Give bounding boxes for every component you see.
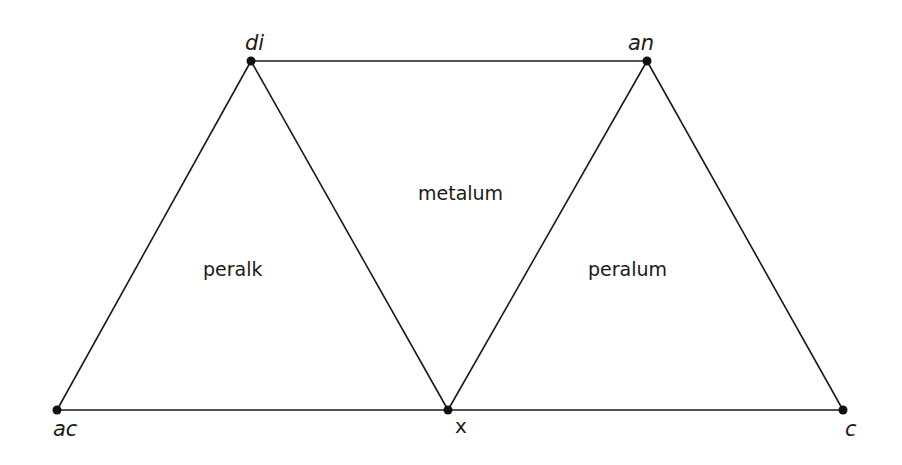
edge-x-an — [448, 61, 647, 410]
vertex-label-ac: ac — [53, 417, 78, 441]
compositional-diagram: di an ac x c peralk metalum peralum — [0, 0, 902, 465]
region-label-peralk: peralk — [203, 258, 263, 280]
vertex-c — [839, 406, 848, 415]
vertex-di — [247, 57, 256, 66]
vertex-ac — [53, 406, 62, 415]
edge-di-x — [251, 61, 448, 410]
edge-ac-di — [57, 61, 251, 410]
vertex-label-c: c — [845, 417, 857, 441]
vertex-an — [643, 57, 652, 66]
edge-an-c — [647, 61, 843, 410]
vertex-x — [444, 406, 453, 415]
vertex-label-an: an — [628, 31, 654, 55]
vertex-label-x: x — [455, 414, 467, 438]
region-label-metalum: metalum — [418, 182, 503, 204]
vertex-label-di: di — [245, 31, 264, 55]
region-label-peralum: peralum — [588, 258, 667, 280]
